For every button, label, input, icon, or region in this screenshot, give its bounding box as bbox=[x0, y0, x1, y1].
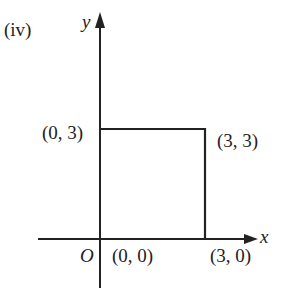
x-axis-label: x bbox=[259, 226, 269, 247]
part-label: (iv) bbox=[4, 19, 31, 41]
point-label-0-3: (0, 3) bbox=[42, 122, 83, 144]
diagram-canvas: (iv) y x O (0, 0) (3, 0) (3, 3) (0, 3) bbox=[0, 0, 285, 294]
y-axis-arrow-icon bbox=[95, 12, 105, 28]
point-label-0-0: (0, 0) bbox=[112, 245, 153, 267]
point-label-3-3: (3, 3) bbox=[217, 130, 258, 152]
y-axis-label: y bbox=[80, 11, 91, 32]
origin-label: O bbox=[80, 245, 94, 266]
point-label-3-0: (3, 0) bbox=[210, 245, 251, 267]
x-axis-arrow-icon bbox=[244, 234, 258, 244]
square-outline bbox=[100, 129, 205, 239]
